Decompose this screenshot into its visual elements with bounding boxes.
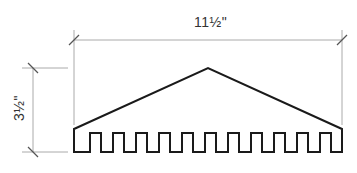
width-dimension [69,30,347,125]
height-label: 3½" [11,95,27,121]
height-dimension [22,63,68,157]
width-label: 11½" [194,14,227,30]
gable-board-outline [74,68,342,152]
technical-drawing [0,0,357,173]
